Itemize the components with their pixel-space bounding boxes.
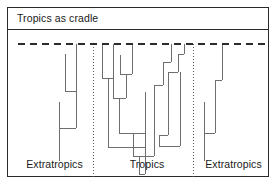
- figure-root: Tropics as cradle Extratropics Tropics E…: [0, 0, 278, 189]
- page-title: Tropics as cradle: [17, 12, 98, 25]
- region-label-right-extratropics: Extratropics: [197, 158, 270, 171]
- title-bar: Tropics as cradle: [8, 8, 268, 30]
- region-label-tropics: Tropics: [97, 158, 197, 171]
- region-label-left-extratropics: Extratropics: [12, 158, 97, 171]
- region-label-row: Extratropics Tropics Extratropics: [8, 150, 268, 176]
- figure-frame: Tropics as cradle Extratropics Tropics E…: [7, 7, 269, 177]
